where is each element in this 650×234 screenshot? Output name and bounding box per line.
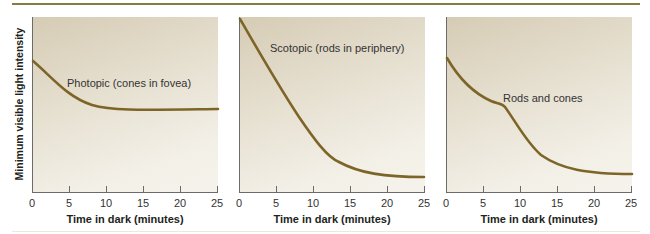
x-tick xyxy=(631,186,632,193)
y-axis-label: Minimum visible light intensity xyxy=(13,28,25,181)
panel-rods-and-cones: 0 5 10 15 20 25 Time in dark (minutes) R… xyxy=(446,17,632,193)
annotation-photopic: Photopic (cones in fovea) xyxy=(67,77,191,89)
annotation-rods-and-cones: Rods and cones xyxy=(503,92,583,104)
x-tick-label: 20 xyxy=(588,197,600,209)
x-tick xyxy=(594,186,595,193)
x-tick xyxy=(180,186,181,193)
x-tick xyxy=(276,186,277,193)
x-tick-label: 10 xyxy=(514,197,526,209)
x-tick xyxy=(520,186,521,193)
x-axis-label: Time in dark (minutes) xyxy=(66,213,183,225)
annotation-scotopic: Scotopic (rods in periphery) xyxy=(270,42,405,54)
curve-rods-and-cones xyxy=(446,17,632,193)
x-tick-label: 0 xyxy=(29,197,35,209)
x-tick-label: 0 xyxy=(236,197,242,209)
curve-photopic xyxy=(32,17,218,193)
x-tick-label: 25 xyxy=(211,197,223,209)
x-tick xyxy=(69,186,70,193)
x-tick-label: 0 xyxy=(443,197,449,209)
x-axis-label: Time in dark (minutes) xyxy=(273,213,390,225)
bottom-rule xyxy=(12,231,640,232)
panel-scotopic: 0 5 10 15 20 25 Time in dark (minutes) S… xyxy=(239,17,425,193)
x-tick-label: 10 xyxy=(100,197,112,209)
x-tick xyxy=(483,186,484,193)
x-tick-label: 5 xyxy=(480,197,486,209)
x-tick-label: 20 xyxy=(174,197,186,209)
x-axis-label: Time in dark (minutes) xyxy=(480,213,597,225)
x-tick xyxy=(217,186,218,193)
x-tick xyxy=(557,186,558,193)
x-tick xyxy=(143,186,144,193)
x-tick-label: 15 xyxy=(551,197,563,209)
top-rule xyxy=(12,3,640,5)
x-tick-label: 25 xyxy=(625,197,637,209)
x-tick-label: 15 xyxy=(137,197,149,209)
x-tick xyxy=(313,186,314,193)
x-tick-label: 15 xyxy=(344,197,356,209)
x-tick-label: 25 xyxy=(418,197,430,209)
x-tick xyxy=(350,186,351,193)
x-tick xyxy=(424,186,425,193)
x-tick xyxy=(387,186,388,193)
x-tick-label: 5 xyxy=(66,197,72,209)
panel-photopic: 0 5 10 15 20 25 Time in dark (minutes) P… xyxy=(32,17,218,193)
x-tick-label: 10 xyxy=(307,197,319,209)
x-tick-label: 5 xyxy=(273,197,279,209)
x-tick-label: 20 xyxy=(381,197,393,209)
x-tick xyxy=(106,186,107,193)
